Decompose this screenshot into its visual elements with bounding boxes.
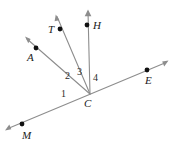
arrow-e-icon [162, 61, 168, 67]
line-m-c-e [8, 63, 166, 129]
angle-label-4: 4 [93, 72, 98, 83]
point-label-m: M [21, 129, 32, 141]
point-dot-m [20, 122, 25, 127]
angle-label-2: 2 [65, 70, 70, 81]
point-label-c: C [84, 97, 92, 109]
geometry-canvas: A T H E M C 1 2 3 4 [0, 0, 173, 149]
arrow-t-icon [55, 15, 60, 22]
point-dot-h [85, 23, 90, 28]
point-label-e: E [144, 74, 152, 86]
arrow-m-icon [5, 125, 11, 131]
angle-label-3: 3 [77, 66, 82, 77]
point-label-a: A [26, 51, 34, 63]
point-label-h: H [92, 19, 102, 31]
angle-label-1: 1 [61, 88, 66, 99]
arrow-a-icon [25, 37, 31, 44]
geometry-diagram: A T H E M C 1 2 3 4 [0, 0, 173, 149]
point-dot-a [34, 46, 39, 51]
point-dot-t [58, 27, 63, 32]
point-label-t: T [48, 23, 55, 35]
arrow-h-icon [85, 10, 92, 17]
point-dot-e [145, 68, 150, 73]
